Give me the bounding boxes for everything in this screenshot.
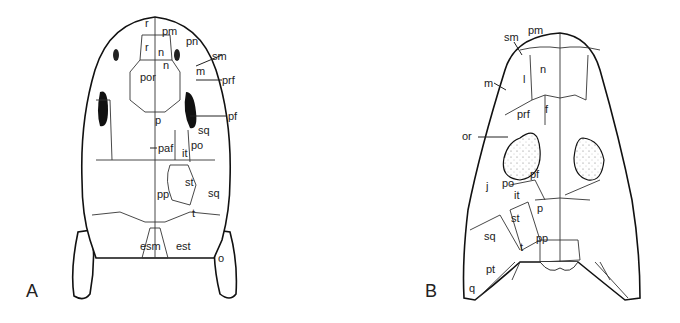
label-t: t	[192, 207, 195, 219]
left-orbit-a	[98, 91, 108, 126]
label-b-p: p	[537, 202, 543, 214]
label-b-pt: pt	[486, 263, 495, 275]
label-b-sq: sq	[484, 230, 496, 242]
label-n-1: n	[158, 46, 164, 58]
label-po: po	[191, 139, 203, 151]
left-nostril-a	[113, 49, 119, 61]
panel-label-a: A	[26, 281, 38, 301]
label-sm: sm	[212, 50, 227, 62]
label-sq-1: sq	[198, 124, 210, 136]
label-b-st: st	[511, 212, 520, 224]
label-b-pp: pp	[536, 232, 548, 244]
right-nostril-a	[174, 49, 180, 61]
label-pf: pf	[228, 110, 238, 122]
label-b-l: l	[523, 73, 525, 85]
label-o: o	[218, 252, 224, 264]
skull-b-dorsal-view	[464, 33, 641, 300]
label-b-m: m	[484, 77, 493, 89]
figure-canvas: r pm pn sm m prf r n n por pf p sq paf i…	[0, 0, 680, 323]
label-st: st	[185, 176, 194, 188]
label-est: est	[176, 240, 191, 252]
label-sq-2: sq	[208, 187, 220, 199]
label-paf: paf	[158, 142, 174, 154]
label-b-q: q	[469, 282, 475, 294]
label-pn: pn	[186, 35, 198, 47]
label-r-rostral-top: r	[145, 17, 149, 29]
label-b-sm: sm	[504, 31, 519, 43]
label-r: r	[145, 41, 149, 53]
label-por: por	[140, 71, 156, 83]
label-b-pm: pm	[528, 24, 543, 36]
label-pm: pm	[162, 25, 177, 37]
label-m: m	[196, 65, 205, 77]
skull-outline-b	[464, 33, 641, 300]
label-b-po: po	[502, 177, 514, 189]
label-b-it: it	[514, 189, 520, 201]
label-b-j: j	[485, 180, 488, 192]
label-esm: esm	[140, 240, 161, 252]
label-p: p	[155, 114, 161, 126]
label-b-t: t	[520, 241, 523, 253]
panel-label-b: B	[425, 281, 437, 301]
label-pp: pp	[157, 188, 169, 200]
label-b-prf: prf	[517, 108, 531, 120]
label-b-n: n	[540, 63, 546, 75]
label-b-pf: pf	[530, 168, 540, 180]
label-prf: prf	[222, 74, 236, 86]
label-b-or: or	[462, 130, 472, 142]
label-n-2: n	[163, 59, 169, 71]
label-it: it	[182, 147, 188, 159]
